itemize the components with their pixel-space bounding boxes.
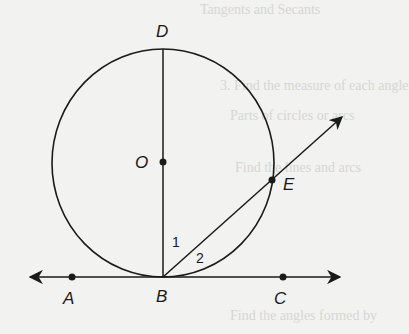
angle-1-label: 1 (172, 234, 180, 250)
label-d: D (156, 22, 168, 41)
label-e: E (283, 175, 295, 194)
point-c (280, 274, 287, 281)
point-e (269, 177, 276, 184)
point-o (160, 159, 167, 166)
ray-be (163, 117, 342, 277)
label-a: A (62, 289, 74, 308)
label-b: B (156, 287, 167, 306)
label-c: C (274, 289, 287, 308)
angle-2-label: 2 (196, 250, 204, 266)
label-o: O (135, 153, 148, 172)
point-a (69, 274, 76, 281)
